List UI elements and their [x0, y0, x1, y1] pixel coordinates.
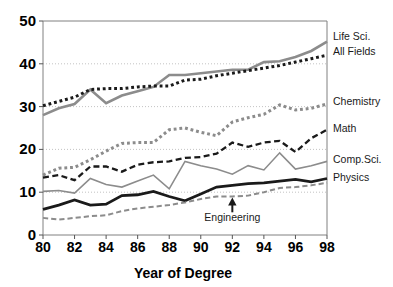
- series-label-chemistry: Chemistry: [333, 95, 381, 107]
- x-axis-tick-label: 88: [161, 239, 177, 255]
- y-axis-tick-label: 30: [19, 98, 36, 115]
- series-label-physics: Physics: [333, 171, 369, 183]
- x-axis-tick-label: 92: [225, 239, 241, 255]
- annotations: Engineering: [204, 197, 260, 223]
- x-axis-tick-label: 96: [288, 239, 304, 255]
- line-chart: Engineering 01020304050 8082848688909294…: [0, 0, 393, 287]
- gridlines: [43, 64, 327, 192]
- y-axis-tick-label: 40: [19, 55, 36, 72]
- series-label-comp-sci: Comp.Sci.: [333, 153, 381, 165]
- annotation-arrow-head: [228, 197, 236, 205]
- x-axis-title: Year of Degree: [134, 265, 232, 281]
- x-axis-tick-labels: 80828486889092949698: [35, 239, 335, 255]
- annotation-label-engineering: Engineering: [204, 211, 260, 223]
- series-line-comp-sci: [43, 153, 327, 193]
- y-axis-tick-label: 10: [19, 183, 36, 200]
- x-axis-tick-label: 80: [35, 239, 51, 255]
- series-line-life-sci: [43, 42, 327, 116]
- series-labels: Life Sci.All FieldsChemistryMathComp.Sci…: [333, 30, 381, 184]
- series-line-all-fields: [43, 55, 327, 106]
- x-axis-tick-label: 86: [130, 239, 146, 255]
- series-label-math: Math: [333, 122, 357, 134]
- x-axis-tick-label: 82: [67, 239, 83, 255]
- x-axis-tick-label: 90: [193, 239, 209, 255]
- series-label-life-sci: Life Sci.: [333, 30, 370, 42]
- data-series: [43, 42, 327, 220]
- y-axis-tick-label: 20: [19, 140, 36, 157]
- series-label-all-fields: All Fields: [333, 45, 376, 57]
- x-axis-tick-label: 84: [98, 239, 114, 255]
- x-axis-tick-label: 98: [319, 239, 335, 255]
- chart-container: Engineering 01020304050 8082848688909294…: [0, 0, 393, 287]
- series-line-chemistry: [43, 104, 327, 175]
- tick-marks: [39, 21, 327, 239]
- y-axis-tick-label: 50: [19, 12, 36, 29]
- y-axis-tick-labels: 01020304050: [19, 12, 36, 243]
- x-axis-tick-label: 94: [256, 239, 272, 255]
- series-line-math: [43, 130, 327, 181]
